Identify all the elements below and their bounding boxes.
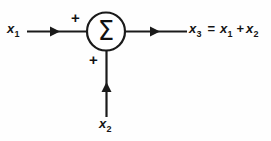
plus-icon-input-2: + (89, 52, 98, 67)
output-expression: x3 = x1 + x2 (189, 22, 259, 39)
input-2-label: x2 (99, 117, 111, 134)
equals-sign: = (207, 22, 215, 35)
output-variable: x3 (189, 22, 201, 39)
arrow-up-icon (102, 82, 112, 92)
output-term-2: x2 (246, 22, 258, 39)
arrow-right-icon-output (150, 27, 160, 37)
output-term-2-subscript: 2 (253, 29, 258, 39)
plus-icon-input-1: + (71, 10, 80, 25)
arrow-right-icon (50, 27, 60, 37)
output-term-1-subscript: 1 (227, 29, 232, 39)
sigma-icon: Σ (98, 16, 114, 46)
input-2-subscript: 2 (106, 124, 111, 134)
output-term-1: x1 (220, 22, 232, 39)
input-1-label: x1 (7, 22, 19, 39)
plus-sign-output: + (236, 22, 244, 35)
output-subscript: 3 (196, 29, 201, 39)
input-1-subscript: 1 (14, 29, 19, 39)
summing-junction-diagram: Σ x1 x2 + + x3 = x1 + x2 (0, 0, 271, 141)
